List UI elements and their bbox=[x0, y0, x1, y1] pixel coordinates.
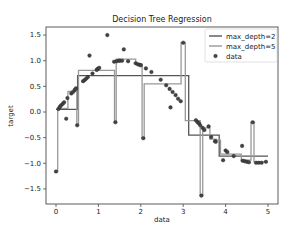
data-point bbox=[114, 121, 118, 125]
data-point bbox=[64, 117, 68, 121]
chart-title: Decision Tree Regression bbox=[112, 15, 212, 24]
chart-figure: Decision Tree Regression 012345 −1.5−1.0… bbox=[0, 0, 296, 238]
data-point bbox=[247, 161, 251, 165]
data-point bbox=[54, 170, 58, 174]
x-axis-label: data bbox=[154, 216, 170, 224]
data-point bbox=[209, 135, 213, 139]
data-point bbox=[142, 136, 146, 140]
data-point bbox=[120, 59, 124, 63]
x-tick-label: 3 bbox=[181, 208, 185, 216]
data-point bbox=[171, 90, 175, 94]
y-tick-label: 1.0 bbox=[30, 57, 41, 65]
y-axis-label: target bbox=[7, 105, 15, 127]
legend-label-depth5: max_depth=5 bbox=[226, 43, 275, 51]
legend: max_depth=2 max_depth=5 data bbox=[205, 29, 277, 62]
data-point bbox=[144, 67, 148, 71]
y-tick-label: 1.5 bbox=[30, 31, 41, 39]
data-point bbox=[232, 154, 236, 158]
data-point bbox=[150, 70, 154, 74]
y-tick-label: −0.5 bbox=[24, 134, 41, 142]
data-point bbox=[181, 41, 185, 45]
data-point bbox=[88, 54, 92, 58]
legend-label-depth2: max_depth=2 bbox=[226, 33, 275, 41]
data-point bbox=[207, 125, 211, 129]
x-tick-label: 5 bbox=[266, 208, 270, 216]
data-point bbox=[122, 48, 126, 52]
data-point bbox=[168, 87, 172, 91]
data-point bbox=[91, 72, 95, 76]
y-tick-label: −1.0 bbox=[24, 160, 41, 168]
data-point bbox=[174, 93, 178, 97]
data-point bbox=[126, 59, 130, 63]
data-point bbox=[251, 121, 255, 125]
data-point bbox=[260, 161, 264, 165]
data-point bbox=[75, 124, 79, 128]
data-point bbox=[226, 150, 230, 154]
x-tick-label: 2 bbox=[139, 208, 143, 216]
data-point bbox=[164, 84, 168, 88]
x-tick-label: 0 bbox=[54, 208, 58, 216]
data-point bbox=[97, 66, 101, 70]
data-point bbox=[179, 99, 183, 103]
data-point bbox=[221, 158, 225, 162]
data-point bbox=[139, 64, 143, 68]
y-tick-label: −1.5 bbox=[24, 185, 41, 193]
data-point bbox=[203, 128, 207, 132]
y-tick-label: 0.0 bbox=[30, 108, 41, 116]
legend-marker-data-icon bbox=[214, 54, 218, 58]
y-tick-label: 0.5 bbox=[30, 83, 41, 91]
data-point bbox=[74, 87, 78, 91]
data-point bbox=[200, 194, 204, 198]
data-point bbox=[62, 101, 66, 105]
x-tick-label: 1 bbox=[96, 208, 100, 216]
data-point bbox=[86, 75, 90, 79]
legend-label-data: data bbox=[226, 53, 242, 61]
data-point bbox=[159, 78, 163, 82]
data-point bbox=[264, 160, 268, 164]
data-point bbox=[214, 140, 218, 144]
data-point bbox=[169, 106, 173, 110]
x-tick-label: 4 bbox=[223, 208, 228, 216]
data-point bbox=[106, 33, 110, 37]
data-point bbox=[240, 144, 244, 148]
data-point bbox=[66, 96, 70, 100]
